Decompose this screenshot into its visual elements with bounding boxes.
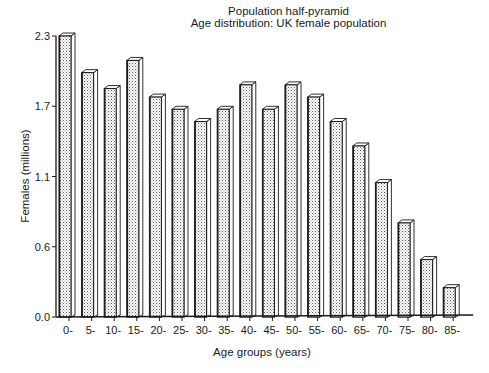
x-tick-label: 80- <box>422 324 438 336</box>
y-tick-label: 2.3 <box>35 30 50 42</box>
y-axis: 0.00.61.11.72.3 <box>35 30 56 323</box>
bar <box>59 33 75 317</box>
bar <box>82 70 98 317</box>
x-tick-label: 65- <box>354 324 370 336</box>
bar <box>149 94 165 317</box>
x-tick-label: 75- <box>399 324 415 336</box>
bar <box>172 106 188 317</box>
x-tick-label: 5- <box>86 324 96 336</box>
y-tick-label: 1.7 <box>35 100 50 112</box>
bar <box>421 257 437 317</box>
x-tick-label: 45- <box>263 324 279 336</box>
x-tick-label: 50- <box>286 324 302 336</box>
x-tick-label: 15- <box>128 324 144 336</box>
x-tick-label: 55- <box>309 324 325 336</box>
bar <box>104 86 120 317</box>
bar <box>398 220 414 317</box>
bar <box>330 119 346 317</box>
y-axis-title: Females (millions) <box>19 129 31 222</box>
bar <box>285 82 301 317</box>
x-tick-label: 25- <box>173 324 189 336</box>
bar <box>217 106 233 317</box>
bar <box>262 106 278 317</box>
x-tick-label: 35- <box>218 324 234 336</box>
x-tick-label: 20- <box>150 324 166 336</box>
bar-chart: 0.00.61.11.72.3 0-5-10-15-20-25-30-35-40… <box>0 0 489 373</box>
bar <box>195 119 211 317</box>
x-tick-label: 40- <box>241 324 257 336</box>
bar <box>375 180 391 317</box>
bar <box>240 82 256 317</box>
x-axis: 0-5-10-15-20-25-30-35-40-45-50-55-60-65-… <box>56 315 473 336</box>
bar <box>308 94 324 317</box>
y-tick-label: 0.0 <box>35 311 50 323</box>
x-tick-label: 70- <box>376 324 392 336</box>
x-tick-label: 85- <box>444 324 460 336</box>
y-tick-label: 1.1 <box>35 171 50 183</box>
bar <box>127 57 143 317</box>
y-tick-label: 0.6 <box>35 241 50 253</box>
x-tick-label: 10- <box>105 324 121 336</box>
bar <box>443 285 459 317</box>
x-axis-title: Age groups (years) <box>213 346 311 358</box>
bar <box>353 143 369 317</box>
x-tick-label: 0- <box>63 324 73 336</box>
bars <box>59 33 459 317</box>
x-tick-label: 30- <box>196 324 212 336</box>
x-tick-label: 60- <box>331 324 347 336</box>
